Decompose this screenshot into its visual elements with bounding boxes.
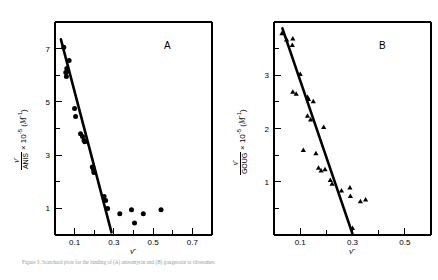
panel-a-axes xyxy=(55,22,212,235)
panel-a-y-exponent: -5 xyxy=(17,129,23,134)
panel-b-y-tick-1: 1 xyxy=(257,177,269,186)
panel-a-y-denominator: ANIS xyxy=(22,152,29,170)
panel-b-fit-line xyxy=(282,28,352,234)
panel-a-y-ticks xyxy=(55,49,62,209)
figure-container: A ν̄ ANIS × 10-5 (M-1) 1 3 5 7 0.1 0.3 0… xyxy=(0,0,438,280)
panel-a-y-unit-open: ( xyxy=(19,124,28,127)
panel-a-plot xyxy=(0,0,219,258)
panel-a-x-ticks xyxy=(75,228,193,235)
panel-b-y-unit-exponent: -1 xyxy=(236,112,242,117)
panel-b-y-axis-label: ν̄ GOUG × 10-5 (M-1) xyxy=(233,109,250,175)
panel-a-y-axis-label: ν̄ ANIS × 10-5 (M-1) xyxy=(14,109,31,170)
panel-a-y-fraction: ν̄ ANIS xyxy=(13,152,30,170)
figure-caption: Figure 3. Scatchard plots for the bindin… xyxy=(22,259,418,280)
panel-b-y-numerator: ν̄ xyxy=(232,152,241,175)
panel-b-y-tick-3: 3 xyxy=(257,71,269,80)
panel-b-letter: B xyxy=(379,40,386,51)
panel-b-y-multiplier: × 10 xyxy=(238,134,247,150)
panel-b-y-exponent: -5 xyxy=(236,129,242,134)
panel-a-y-multiplier: × 10 xyxy=(19,134,28,150)
panel-a-y-unit-symbol: M xyxy=(19,117,28,124)
panel-b-x-tick-0.5: 0.5 xyxy=(399,238,410,247)
panel-b-y-unit-symbol: M xyxy=(238,117,247,124)
panel-b: B ν̄ GOUG × 10-5 (M-1) 1 2 3 0.1 0.3 0.5… xyxy=(219,0,438,258)
panel-a-x-tick-0.7: 0.7 xyxy=(187,238,198,247)
panel-b-x-tick-0.1: 0.1 xyxy=(295,238,306,247)
panel-a: A ν̄ ANIS × 10-5 (M-1) 1 3 5 7 0.1 0.3 0… xyxy=(0,0,219,258)
panel-b-y-fraction: ν̄ GOUG xyxy=(232,152,249,175)
panel-a-y-unit-exponent: -1 xyxy=(17,112,23,117)
panel-b-x-axis-label: ν̄ xyxy=(349,246,353,256)
panel-b-axes xyxy=(274,22,431,235)
panel-b-y-denominator: GOUG xyxy=(241,152,248,175)
panel-a-y-tick-3: 3 xyxy=(38,151,50,160)
panel-a-x-axis-label: ν̄ xyxy=(130,246,134,256)
panel-b-y-unit-close: ) xyxy=(238,109,247,112)
panel-a-data-points xyxy=(61,45,163,226)
panel-a-y-tick-5: 5 xyxy=(38,97,50,106)
panel-a-x-tick-0.3: 0.3 xyxy=(108,238,119,247)
panel-a-y-unit-close: ) xyxy=(19,109,28,112)
panel-a-x-tick-0.1: 0.1 xyxy=(69,238,80,247)
panel-b-y-units: × 10-5 (M-1) xyxy=(236,109,247,152)
panel-b-y-unit-open: ( xyxy=(238,124,247,127)
panel-b-plot xyxy=(219,0,438,258)
panel-a-y-tick-1: 1 xyxy=(38,204,50,213)
panel-a-x-tick-0.5: 0.5 xyxy=(148,238,159,247)
panel-b-y-ticks xyxy=(274,49,281,209)
panel-a-y-tick-7: 7 xyxy=(38,44,50,53)
panel-a-letter: A xyxy=(164,40,171,51)
panel-b-y-tick-2: 2 xyxy=(257,124,269,133)
panel-a-y-numerator: ν̄ xyxy=(13,152,22,170)
panel-a-y-units: × 10-5 (M-1) xyxy=(17,109,28,152)
